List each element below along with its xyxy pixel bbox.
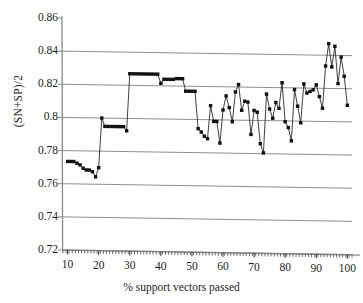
x-tick-label: 40 xyxy=(146,261,176,273)
x-tick-label: 70 xyxy=(239,262,269,274)
chart-figure: (SN+SP)/2 0.720.740.760.780.80.820.840.8… xyxy=(0,0,363,303)
x-tick-label: 50 xyxy=(177,261,207,273)
x-tick-label: 80 xyxy=(270,262,300,274)
x-axis-title: % support vectors passed xyxy=(0,281,363,293)
x-tick-label: 30 xyxy=(115,260,145,272)
x-tick-label: 10 xyxy=(53,259,83,271)
x-tick-label: 60 xyxy=(208,261,238,273)
x-tick-label: 20 xyxy=(84,260,114,272)
x-tick-label: 100 xyxy=(332,263,362,275)
x-tick-label: 90 xyxy=(301,263,331,275)
x-axis-tick-labels: 102030405060708090100 xyxy=(0,0,363,303)
